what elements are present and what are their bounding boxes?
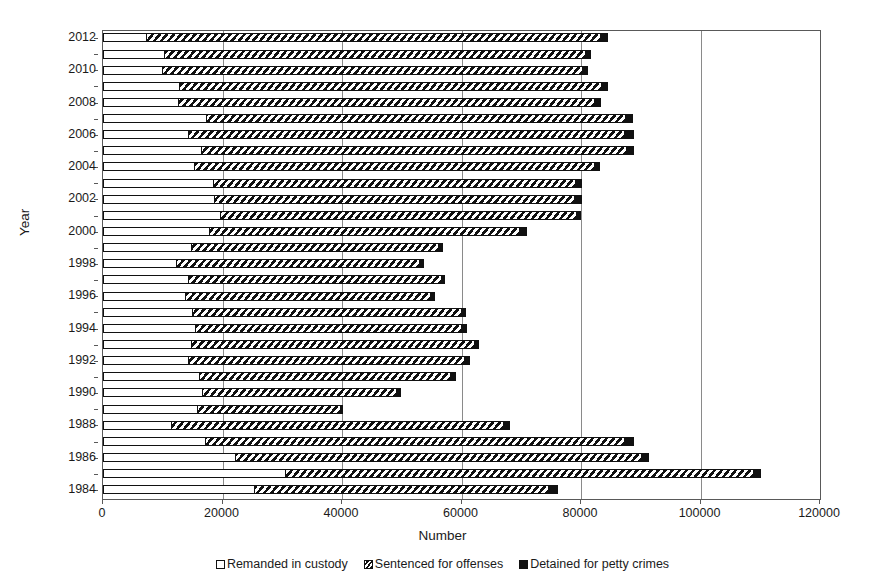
stacked-bar[interactable] — [103, 195, 582, 204]
y-axis-tick-label: 2000 — [50, 224, 96, 238]
bar-chart: 2012201020082006200420022000199819961994… — [0, 0, 885, 583]
legend-label: Remanded in custody — [227, 557, 348, 571]
bar-segment — [199, 372, 450, 381]
bar-segment — [594, 162, 601, 171]
bar-segment — [103, 259, 176, 268]
bar-segment — [103, 211, 220, 220]
y-axis-tick — [94, 54, 98, 55]
stacked-bar[interactable] — [103, 243, 443, 252]
stacked-bar[interactable] — [103, 98, 601, 107]
bar-segment — [503, 421, 510, 430]
stacked-bar[interactable] — [103, 356, 470, 365]
y-axis-title: Year — [17, 209, 32, 236]
bar-segment — [188, 356, 464, 365]
bar-row — [103, 321, 820, 337]
stacked-bar[interactable] — [103, 437, 634, 446]
stacked-bar[interactable] — [103, 146, 634, 155]
bar-segment — [191, 243, 437, 252]
stacked-bar[interactable] — [103, 66, 588, 75]
bar-segment — [103, 114, 206, 123]
stacked-bar[interactable] — [103, 275, 445, 284]
bar-segment — [197, 405, 339, 414]
bar-row — [103, 386, 820, 402]
bar-row — [103, 241, 820, 257]
stacked-bar[interactable] — [103, 324, 467, 333]
stacked-bar[interactable] — [103, 82, 608, 91]
y-axis-tick-label: 1998 — [50, 256, 96, 270]
bar-segment — [103, 130, 188, 139]
bar-row — [103, 112, 820, 128]
bar-segment — [103, 453, 235, 462]
bar-row — [103, 209, 820, 225]
bar-segment — [179, 82, 601, 91]
bar-row — [103, 418, 820, 434]
stacked-bar[interactable] — [103, 179, 582, 188]
bar-segment — [103, 405, 197, 414]
bar-row — [103, 192, 820, 208]
legend-item[interactable]: Remanded in custody — [216, 557, 348, 571]
stacked-bar[interactable] — [103, 50, 591, 59]
stacked-bar[interactable] — [103, 308, 466, 317]
black-square-icon — [519, 560, 528, 569]
x-axis-tick-label: 0 — [99, 506, 106, 520]
y-axis-tick — [94, 86, 98, 87]
bar-segment — [103, 50, 164, 59]
stacked-bar[interactable] — [103, 388, 401, 397]
stacked-bar[interactable] — [103, 259, 424, 268]
bar-segment — [195, 324, 461, 333]
stacked-bar[interactable] — [103, 372, 456, 381]
bar-segment — [103, 308, 192, 317]
bar-segment — [103, 340, 191, 349]
stacked-bar[interactable] — [103, 33, 608, 42]
bar-row — [103, 338, 820, 354]
bar-segment — [103, 33, 146, 42]
bar-segment — [585, 50, 591, 59]
y-axis-tick — [94, 151, 98, 152]
bar-segment — [625, 114, 633, 123]
bar-segment — [202, 388, 396, 397]
stacked-bar[interactable] — [103, 405, 343, 414]
bar-segment — [103, 195, 214, 204]
bar-segment — [624, 437, 634, 446]
stacked-bar[interactable] — [103, 340, 479, 349]
stacked-bar[interactable] — [103, 292, 435, 301]
legend-item[interactable]: Sentenced for offenses — [364, 557, 503, 571]
bar-segment — [146, 33, 600, 42]
x-axis-tick — [461, 499, 462, 504]
stacked-bar[interactable] — [103, 211, 581, 220]
x-axis-tick — [341, 499, 342, 504]
bar-segment — [162, 66, 583, 75]
bar-segment — [103, 469, 285, 478]
x-axis-tick — [700, 499, 701, 504]
stacked-bar[interactable] — [103, 485, 558, 494]
stacked-bar[interactable] — [103, 421, 510, 430]
bar-segment — [474, 340, 479, 349]
y-axis-tick-label: 1992 — [50, 353, 96, 367]
legend-label: Sentenced for offenses — [375, 557, 503, 571]
stacked-bar[interactable] — [103, 114, 633, 123]
hatched-square-icon — [364, 560, 373, 569]
bar-segment — [582, 66, 588, 75]
stacked-bar[interactable] — [103, 469, 761, 478]
stacked-bar[interactable] — [103, 162, 600, 171]
bar-segment — [103, 372, 199, 381]
bar-segment — [206, 114, 625, 123]
bar-row — [103, 273, 820, 289]
bar-segment — [103, 146, 201, 155]
chart-legend: Remanded in custodySentenced for offense… — [0, 557, 885, 571]
stacked-bar[interactable] — [103, 227, 527, 236]
bar-segment — [103, 292, 185, 301]
bar-segment — [201, 146, 626, 155]
legend-item[interactable]: Detained for petty crimes — [519, 557, 669, 571]
legend-label: Detained for petty crimes — [530, 557, 669, 571]
bar-segment — [464, 356, 470, 365]
y-axis-tick — [94, 312, 98, 313]
stacked-bar[interactable] — [103, 453, 649, 462]
bar-row — [103, 305, 820, 321]
bar-row — [103, 434, 820, 450]
x-axis-tick-label: 80000 — [563, 506, 598, 520]
y-axis-tick — [94, 442, 98, 443]
y-axis-tick-label: 2010 — [50, 62, 96, 76]
stacked-bar[interactable] — [103, 130, 634, 139]
bar-segment — [188, 275, 440, 284]
